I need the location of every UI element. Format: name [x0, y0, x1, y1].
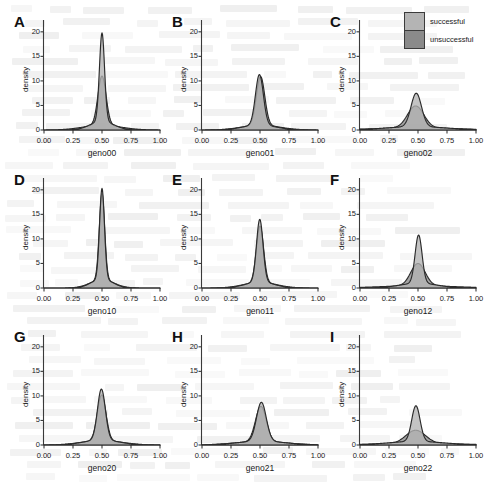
plot-area [194, 176, 324, 294]
panel-label: E [172, 172, 182, 187]
x-tick-label: 1.00 [147, 452, 173, 460]
panel-label: F [330, 172, 339, 187]
x-tick-label: 1.00 [147, 137, 173, 145]
plot-area [36, 333, 166, 451]
x-tick-label: 0.00 [31, 452, 57, 460]
density-curve-successful [202, 402, 318, 445]
panel-geno02: Cdensity051015200.000.250.500.751.00geno… [330, 8, 484, 160]
panel-label: C [330, 14, 341, 29]
x-tick-label: 0.50 [405, 452, 431, 460]
x-tick-label: 0.75 [118, 295, 144, 303]
density-curve-successful [360, 406, 476, 445]
x-tick-label: 1.00 [463, 452, 488, 460]
x-tick-label: 0.50 [89, 452, 115, 460]
density-curve-successful [202, 75, 318, 130]
x-tick-label: 0.00 [347, 295, 373, 303]
panel-geno10: Ddensity051015200.000.250.500.751.00geno… [14, 166, 168, 318]
x-tick-label: 0.25 [60, 295, 86, 303]
x-tick-label: 0.50 [405, 137, 431, 145]
panel-geno01: Bdensity051015200.000.250.500.751.00geno… [172, 8, 326, 160]
plot-area [36, 18, 166, 136]
x-tick-label: 0.25 [218, 137, 244, 145]
x-tick-label: 1.00 [463, 295, 488, 303]
x-tick-label: 0.00 [189, 452, 215, 460]
panel-geno00: Adensity051015200.000.250.500.751.00geno… [14, 8, 168, 160]
x-tick-label: 0.00 [31, 137, 57, 145]
x-tick-label: 1.00 [305, 137, 331, 145]
x-tick-label: 0.25 [376, 295, 402, 303]
plot-area [352, 176, 482, 294]
x-tick-label: 0.75 [276, 452, 302, 460]
x-tick-label: 0.50 [89, 137, 115, 145]
panel-geno20: Gdensity051015200.000.250.500.751.00geno… [14, 323, 168, 475]
x-tick-label: 0.25 [60, 137, 86, 145]
x-tick-label: 0.25 [218, 452, 244, 460]
x-axis-label: geno10 [44, 307, 160, 316]
plot-area [194, 333, 324, 451]
x-tick-label: 0.25 [376, 137, 402, 145]
density-curve-successful [44, 33, 160, 130]
panel-label: D [14, 172, 25, 187]
x-axis-label: geno21 [202, 464, 318, 473]
panel-geno22: Idensity051015200.000.250.500.751.00geno… [330, 323, 484, 475]
panel-label: A [14, 14, 25, 29]
density-curve-successful [360, 93, 476, 130]
x-axis-label: geno11 [202, 307, 318, 316]
panel-label: G [14, 329, 26, 344]
plot-area [352, 333, 482, 451]
density-curve-successful [202, 219, 318, 288]
x-tick-label: 0.75 [118, 137, 144, 145]
x-tick-label: 1.00 [305, 452, 331, 460]
x-tick-label: 0.75 [118, 452, 144, 460]
x-axis-label: geno12 [360, 307, 476, 316]
x-tick-label: 0.75 [434, 452, 460, 460]
density-curve-successful [44, 188, 160, 288]
x-tick-label: 1.00 [463, 137, 488, 145]
x-tick-label: 0.50 [89, 295, 115, 303]
x-tick-label: 0.25 [218, 295, 244, 303]
x-axis-label: geno01 [202, 149, 318, 158]
panel-geno11: Edensity051015200.000.250.500.751.00geno… [172, 166, 326, 318]
panel-geno21: Hdensity051015200.000.250.500.751.00geno… [172, 323, 326, 475]
x-tick-label: 0.00 [189, 137, 215, 145]
x-tick-label: 0.50 [247, 452, 273, 460]
x-tick-label: 0.00 [347, 452, 373, 460]
panel-label: H [172, 329, 183, 344]
x-axis-label: geno22 [360, 464, 476, 473]
plot-area [194, 18, 324, 136]
x-tick-label: 0.00 [347, 137, 373, 145]
x-tick-label: 1.00 [305, 295, 331, 303]
x-tick-label: 0.75 [276, 137, 302, 145]
x-tick-label: 0.75 [434, 295, 460, 303]
x-tick-label: 0.75 [434, 137, 460, 145]
panel-label: B [172, 14, 183, 29]
x-tick-label: 0.50 [247, 137, 273, 145]
x-tick-label: 1.00 [147, 295, 173, 303]
panel-geno12: Fdensity051015200.000.250.500.751.00geno… [330, 166, 484, 318]
x-tick-label: 0.25 [60, 452, 86, 460]
x-axis-label: geno02 [360, 149, 476, 158]
x-tick-label: 0.50 [247, 295, 273, 303]
panel-label: I [330, 329, 334, 344]
x-tick-label: 0.25 [376, 452, 402, 460]
x-tick-label: 0.00 [31, 295, 57, 303]
plot-area [36, 176, 166, 294]
x-axis-label: geno00 [44, 149, 160, 158]
x-tick-label: 0.50 [405, 295, 431, 303]
plot-area [352, 18, 482, 136]
density-curve-successful [44, 389, 160, 445]
density-curve-successful [360, 235, 476, 288]
x-axis-label: geno20 [44, 464, 160, 473]
x-tick-label: 0.75 [276, 295, 302, 303]
x-tick-label: 0.00 [189, 295, 215, 303]
